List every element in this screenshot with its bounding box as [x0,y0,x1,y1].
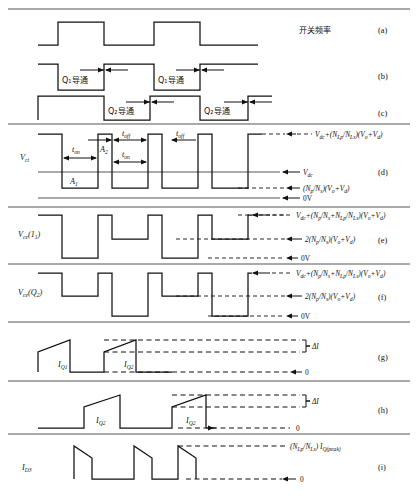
row-h-zero-label: 0 [296,424,300,433]
row-i-zero-pointer [282,477,296,482]
row-f-top-pointer [252,271,292,276]
row-a-clock [38,22,258,45]
row-e-formula-zero: 0V [301,254,311,263]
row-a-index: (a) [378,26,388,35]
row-d-a2-arrow [88,138,112,143]
row-e-index: (e) [378,236,388,245]
row-f-formula-zero: 0V [301,312,311,321]
row-f-vce-q2 [38,271,302,319]
row-g-delta-brace [302,340,310,352]
row-h-delta-brace [302,395,310,407]
row-h-delta-label: ΔI [311,397,319,406]
row-e-formula-mid: 2(Np/Ns)(Vo+Vd) [305,235,356,245]
row-g-zero-pointer [290,370,302,375]
row-f-formula-mid: 2(Np/Ns)(Vo+Vd) [305,292,356,302]
row-d-toff-label-1: toff [122,129,132,139]
row-d-formula-top: Vdc+(NLp/NLs)(Vo+Vd) [315,130,383,140]
row-f-left-label: Vce(Q2) [18,288,42,298]
row-d-a2-label: A2 [99,145,108,155]
row-g-curve-label-1: IQ1 [57,360,68,370]
row-i-index: (i) [378,463,386,472]
row-i-left-label: ID3 [21,463,32,473]
row-g-iq1 [38,340,310,375]
row-h-curve-label-1: IQ2 [95,416,106,426]
section-dividers [8,9,410,434]
row-d-toff-label-2: toff [176,129,186,139]
row-h-ramp-path [38,395,206,428]
row-e-mid-pointer [286,237,302,242]
row-d-ton-label-1: ton [72,145,80,155]
row-c-index: (c) [378,109,388,118]
row-i-id3 [74,446,296,482]
row-i-spike-path [74,446,196,479]
row-d-low-pointer [286,186,300,191]
row-e-vce-q1 [38,213,302,261]
row-d-0v-pointer [282,196,300,201]
row-d-ton-arrow-1 [63,156,97,161]
row-b-index: (b) [378,72,388,81]
row-f-mid-pointer [286,294,302,299]
row-f-zero-pointer [286,314,298,319]
row-h-index: (h) [378,406,388,415]
row-d-top-pointer [286,132,312,137]
row-i-zero-label: 0 [300,475,304,484]
row-d-formula-vdc: Vdc [303,168,313,178]
row-c-pulse-label-1: Q₂导通 [108,106,134,116]
row-g-delta-label: ΔI [311,342,319,351]
row-f-formula-top: Vdc+(Np/Ns+NLp/NLs)(Vo+Vd) [296,269,386,279]
row-b-pulse-label-2: Q₁导通 [158,75,184,85]
row-e-left-label: Vce(11) [18,230,41,240]
row-c-pulse-label-2: Q₂导通 [204,106,230,116]
row-d-formula-low: (Np/Ns)(Vo+Vd) [303,184,350,194]
row-d-vct [38,132,312,201]
row-h-zero-pointer [206,426,216,431]
row-d-index: (d) [378,168,388,177]
row-e-zero-pointer [286,256,298,261]
row-d-vdc-pointer [282,170,300,175]
row-i-peak-label: (NLp/NLs) IQ(peak) [290,442,341,453]
row-e-formula-top: Vdc+(Np/Ns+NLp/NLs)(Vo+Vd) [296,211,386,221]
row-d-a1-label: A1 [69,177,78,187]
row-h-iq2 [38,395,310,431]
row-h-curve-label-2: IQ2 [185,416,196,426]
row-d-formula-zero: 0V [303,194,313,203]
row-b-pulse-label-1: Q₁导通 [62,75,88,85]
row-a-note: 开关频率 [299,25,331,35]
row-d-ton-arrow-2 [113,160,147,165]
row-f-index: (f) [378,293,387,302]
row-g-curve-label-2: IQ2 [123,360,134,370]
waveform-figure: 开关频率 (a) Q₁导通 Q₁导通 (b) [0,0,418,501]
row-g-zero-label: 0 [305,368,309,377]
row-d-left-label: Vct [20,153,29,163]
row-g-index: (g) [378,353,388,362]
row-d-ton-label-2: ton [122,150,130,160]
row-c-q2-drive [38,96,272,120]
row-e-top-pointer [252,213,292,218]
